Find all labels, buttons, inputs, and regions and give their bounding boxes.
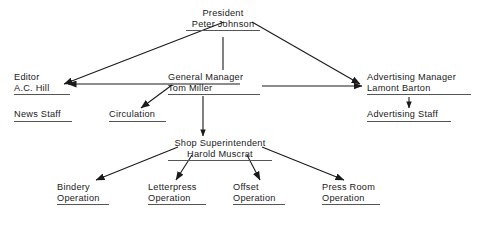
- edge-shop-superintendent-to-bindery: [96, 147, 178, 180]
- node-circulation-underline: [109, 121, 166, 122]
- node-news-staff-underline: [14, 121, 72, 122]
- org-chart: PresidentPeter JohnsonEditorA.C. HillGen…: [0, 0, 483, 226]
- node-general-manager-underline: [168, 94, 260, 95]
- node-editor-underline: [14, 94, 70, 95]
- node-advertising-manager-line-2: Lamont Barton: [367, 83, 471, 94]
- node-shop-superintendent-line-2: Harold Muscrat: [168, 149, 272, 160]
- node-general-manager: General ManagerTom Miller: [168, 72, 260, 95]
- node-press-room-operation: Press RoomOperation: [322, 182, 380, 205]
- node-advertising-staff-underline: [367, 121, 451, 122]
- node-advertising-staff-line-1: Advertising Staff: [367, 109, 451, 120]
- node-president-line-1: President: [186, 8, 260, 19]
- node-press-room-operation-underline: [322, 204, 380, 205]
- edge-president-to-advertising-manager: [252, 22, 360, 84]
- node-bindery-operation-underline: [57, 204, 109, 205]
- node-offset-operation-line-2: Operation: [233, 193, 285, 204]
- node-shop-superintendent: Shop SuperintendentHarold Muscrat: [168, 138, 272, 161]
- node-president: PresidentPeter Johnson: [186, 8, 260, 31]
- node-shop-superintendent-line-1: Shop Superintendent: [168, 138, 272, 149]
- node-advertising-manager-underline: [367, 94, 471, 95]
- node-letterpress-operation-line-2: Operation: [148, 193, 206, 204]
- node-president-underline: [186, 30, 260, 31]
- node-offset-operation-line-1: Offset: [233, 182, 285, 193]
- node-bindery-operation-line-2: Operation: [57, 193, 109, 204]
- node-circulation-line-1: Circulation: [109, 109, 166, 120]
- node-shop-superintendent-underline: [168, 160, 272, 161]
- node-advertising-manager: Advertising ManagerLamont Barton: [367, 72, 471, 95]
- node-editor-line-2: A.C. Hill: [14, 83, 70, 94]
- node-bindery-operation: BinderyOperation: [57, 182, 109, 205]
- node-letterpress-operation-underline: [148, 204, 206, 205]
- edge-shop-superintendent-to-press-room: [262, 147, 344, 180]
- node-offset-operation: OffsetOperation: [233, 182, 285, 205]
- node-circulation: Circulation: [109, 109, 166, 122]
- node-general-manager-line-1: General Manager: [168, 72, 260, 83]
- node-news-staff-line-1: News Staff: [14, 109, 72, 120]
- node-offset-operation-underline: [233, 204, 285, 205]
- node-letterpress-operation-line-1: Letterpress: [148, 182, 206, 193]
- node-letterpress-operation: LetterpressOperation: [148, 182, 206, 205]
- node-editor-line-1: Editor: [14, 72, 70, 83]
- node-press-room-operation-line-1: Press Room: [322, 182, 380, 193]
- node-press-room-operation-line-2: Operation: [322, 193, 380, 204]
- node-advertising-manager-line-1: Advertising Manager: [367, 72, 471, 83]
- node-news-staff: News Staff: [14, 109, 72, 122]
- node-advertising-staff: Advertising Staff: [367, 109, 451, 122]
- node-president-line-2: Peter Johnson: [186, 19, 260, 30]
- node-editor: EditorA.C. Hill: [14, 72, 70, 95]
- node-bindery-operation-line-1: Bindery: [57, 182, 109, 193]
- node-general-manager-line-2: Tom Miller: [168, 83, 260, 94]
